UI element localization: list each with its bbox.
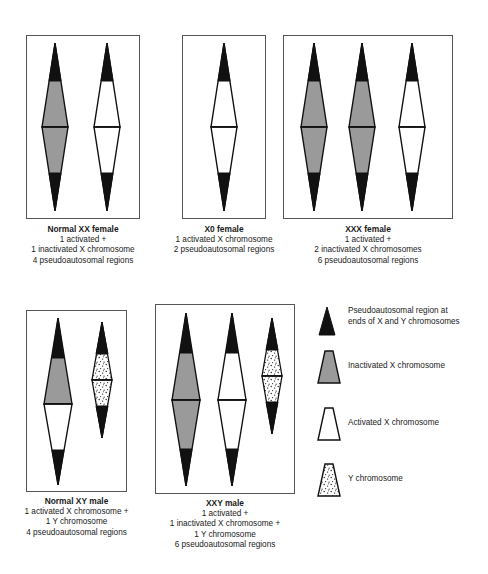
chromosome-activated-x-chromosome: [218, 313, 246, 486]
legend: Pseudoautosomal region at ends of X and …: [316, 306, 488, 496]
panel-title: XXY male: [170, 498, 280, 509]
caption-line: 1 inactivated X chromosome: [31, 245, 134, 255]
caption-line: 1 activated +: [170, 509, 280, 519]
caption-line: 2 pseudoautosomal regions: [174, 245, 275, 255]
caption-line: 1 inactivated X chromosome +: [170, 519, 280, 529]
panel-title: Normal XX female: [31, 224, 134, 235]
legend-item-y-chromosome: Y chromosome: [316, 462, 403, 502]
caption-line: 1 activated +: [31, 235, 134, 245]
chromosome-y-chromosome: [92, 322, 112, 438]
caption-line: 1 activated X chromosome +: [25, 507, 129, 517]
caption-line: 1 activated +: [314, 235, 421, 245]
panel-title: XXX female: [314, 224, 421, 235]
chromosome-activated-x-chromosome: [94, 43, 120, 211]
chromosome-inactivated-x-chromosome: [301, 43, 327, 211]
panel-x0-female: X0 female 1 activated X chromosome 2 pse…: [182, 35, 266, 219]
legend-label: Y chromosome: [342, 462, 403, 485]
panel-xxy-male: XXY male 1 activated + 1 inactivated X c…: [155, 304, 295, 494]
chromosome-activated-x-chromosome: [44, 318, 72, 485]
legend-swatch-black-triangle: [316, 306, 338, 340]
chromosome-group: [182, 35, 266, 219]
legend-label: Inactivated X chromosome: [342, 349, 445, 372]
panel-normal-xx-female: Normal XX female 1 activated + 1 inactiv…: [26, 35, 140, 219]
caption-line: 4 pseudoautosomal regions: [25, 528, 129, 538]
legend-label-line: ends of X and Y chromosomes: [348, 317, 460, 328]
legend-swatch-stippled-trapezoid: [316, 462, 342, 502]
caption-line: 2 inactivated X chromosomes: [314, 245, 421, 255]
chromosome-diagram: [28, 314, 125, 489]
caption-line: 6 pseudoautosomal regions: [314, 256, 421, 266]
chromosome-group: [26, 35, 140, 219]
chromosome-diagram: [184, 39, 264, 215]
chromosome-activated-x-chromosome: [399, 43, 425, 211]
legend-label-line: Pseudoautosomal region at: [348, 306, 460, 317]
legend-swatch-gray-trapezoid: [316, 349, 342, 389]
caption-line: 4 pseudoautosomal regions: [31, 256, 134, 266]
legend-item-pseudoautosomal-region: Pseudoautosomal region at ends of X and …: [316, 306, 460, 340]
panel-caption: Normal XY male 1 activated X chromosome …: [25, 496, 129, 538]
chromosome-group: [155, 304, 295, 494]
chromosome-group: [283, 35, 453, 219]
chromosome-group: [26, 310, 127, 492]
legend-item-inactivated-x: Inactivated X chromosome: [316, 349, 445, 389]
legend-swatch-white-trapezoid: [316, 406, 342, 446]
legend-label: Activated X chromosome: [342, 406, 439, 429]
legend-item-activated-x: Activated X chromosome: [316, 406, 439, 446]
chromosome-diagram: [286, 39, 450, 215]
chromosome-diagram: [28, 39, 138, 215]
panel-normal-xy-male: Normal XY male 1 activated X chromosome …: [26, 310, 127, 492]
figure-canvas: Normal XX female 1 activated + 1 inactiv…: [0, 0, 488, 574]
caption-line: 1 Y chromosome: [170, 530, 280, 540]
legend-label-line: Activated X chromosome: [348, 418, 439, 429]
chromosome-inactivated-x-chromosome: [349, 43, 375, 211]
chromosome-y-chromosome: [262, 318, 282, 434]
chromosome-activated-x-chromosome: [211, 43, 237, 211]
panel-xxx-female: XXX female 1 activated + 2 inactivated X…: [283, 35, 453, 219]
panel-caption: Normal XX female 1 activated + 1 inactiv…: [31, 224, 134, 266]
caption-line: 1 activated X chromosome: [174, 235, 275, 245]
panel-caption: XXX female 1 activated + 2 inactivated X…: [314, 224, 421, 266]
legend-label-line: Y chromosome: [348, 474, 403, 485]
panel-title: X0 female: [174, 224, 275, 235]
legend-label-line: Inactivated X chromosome: [348, 361, 445, 372]
panel-caption: XXY male 1 activated + 1 inactivated X c…: [170, 498, 280, 551]
chromosome-diagram: [158, 308, 292, 490]
chromosome-inactivated-x-chromosome: [42, 43, 68, 211]
panel-title: Normal XY male: [25, 496, 129, 507]
legend-label: Pseudoautosomal region at ends of X and …: [338, 306, 460, 327]
caption-line: 1 Y chromosome: [25, 517, 129, 527]
panel-caption: X0 female 1 activated X chromosome 2 pse…: [174, 224, 275, 256]
caption-line: 6 pseudoautosomal regions: [170, 540, 280, 550]
chromosome-inactivated-x-chromosome: [172, 313, 200, 486]
